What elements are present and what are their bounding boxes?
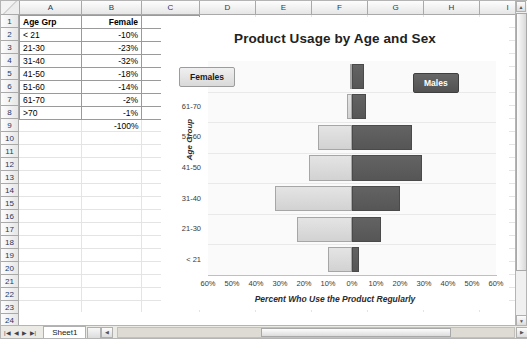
row-header-2[interactable]: 2 [1, 28, 19, 41]
cell-a7[interactable]: 61-70 [20, 94, 82, 107]
row-header-11[interactable]: 11 [1, 145, 19, 158]
bar-male-31-40[interactable] [352, 186, 400, 211]
bar-male-51-60[interactable] [352, 125, 412, 150]
gridline [208, 153, 496, 154]
sheet-tab-sheet1[interactable]: Sheet1 [43, 326, 86, 338]
bar-male--70[interactable] [352, 64, 364, 89]
row-header-7[interactable]: 7 [1, 93, 19, 106]
bar-male--21[interactable] [352, 247, 359, 272]
column-header-d[interactable]: D [200, 1, 256, 14]
y-tick--21: < 21 [167, 255, 201, 264]
column-header-b[interactable]: B [82, 1, 142, 14]
vertical-scrollbar[interactable]: ▲ ▼ [515, 1, 526, 326]
cell-b2[interactable]: -10% [82, 29, 142, 42]
row-header-16[interactable]: 16 [1, 210, 19, 223]
column-header-e[interactable]: E [256, 1, 312, 14]
cell-a6[interactable]: 51-60 [20, 81, 82, 94]
cell-a5[interactable]: 41-50 [20, 68, 82, 81]
y-axis-title: Age Group [185, 100, 194, 180]
cell-a2[interactable]: < 21 [20, 29, 82, 42]
scroll-up-icon[interactable]: ▲ [516, 1, 526, 12]
sheet-bottom-bar: |◀ ◀ ▶ ▶| Sheet1 ◀ ▶ [1, 325, 527, 338]
column-header-h[interactable]: H [424, 1, 480, 14]
column-header-row: A B C D E F G H I J K L [1, 1, 516, 15]
row-header-21[interactable]: 21 [1, 275, 19, 288]
cell-b3[interactable]: -23% [82, 42, 142, 55]
row-header-8[interactable]: 8 [1, 106, 19, 119]
cell-a4[interactable]: 31-40 [20, 55, 82, 68]
cell-b7[interactable]: -2% [82, 94, 142, 107]
gridline [208, 122, 496, 123]
cell-b9[interactable]: -100% [82, 120, 142, 133]
scroll-left-icon[interactable]: ◀ [101, 327, 113, 338]
legend-females[interactable]: Females [179, 67, 235, 87]
chart-object[interactable]: Product Usage by Age and Sex 60%50%40%30… [161, 17, 509, 310]
row-header-18[interactable]: 18 [1, 236, 19, 249]
cell-a8[interactable]: >70 [20, 107, 82, 120]
cell-b4[interactable]: -32% [82, 55, 142, 68]
column-header-a[interactable]: A [20, 1, 82, 14]
vertical-scroll-thumb[interactable] [516, 13, 527, 271]
row-header-6[interactable]: 6 [1, 80, 19, 93]
row-header-4[interactable]: 4 [1, 54, 19, 67]
new-sheet-icon[interactable] [87, 327, 101, 338]
column-header-g[interactable]: G [368, 1, 424, 14]
gridline [208, 183, 496, 184]
legend-males[interactable]: Males [413, 73, 459, 93]
row-header-9[interactable]: 9 [1, 119, 19, 132]
horizontal-scroll-thumb[interactable] [261, 328, 451, 337]
bar-male-21-30[interactable] [352, 217, 381, 242]
x-tick-12: 60% [481, 279, 511, 288]
row-header-13[interactable]: 13 [1, 171, 19, 184]
first-sheet-icon[interactable]: |◀ [3, 329, 12, 336]
bar-female--21[interactable] [328, 247, 352, 272]
horizontal-scrollbar[interactable] [117, 327, 515, 338]
cell-a9[interactable] [20, 120, 82, 133]
row-header-5[interactable]: 5 [1, 67, 19, 80]
chart-title: Product Usage by Age and Sex [161, 31, 509, 46]
row-header-20[interactable]: 20 [1, 262, 19, 275]
excel-window: A B C D E F G H I J K L 1234567891011121… [0, 0, 527, 339]
bar-female-51-60[interactable] [318, 125, 352, 150]
x-axis-title: Percent Who Use the Product Regularly [161, 294, 509, 304]
bar-male-41-50[interactable] [352, 155, 422, 180]
row-header-14[interactable]: 14 [1, 184, 19, 197]
cell-b5[interactable]: -18% [82, 68, 142, 81]
bar-female-41-50[interactable] [309, 155, 352, 180]
next-sheet-icon[interactable]: ▶ [21, 329, 28, 336]
cell-b6[interactable]: -14% [82, 81, 142, 94]
select-all-corner[interactable] [1, 1, 20, 14]
row-header-12[interactable]: 12 [1, 158, 19, 171]
cell-a1[interactable]: Age Grp [20, 16, 82, 29]
prev-sheet-icon[interactable]: ◀ [13, 329, 20, 336]
row-header-column: 123456789101112131415161718192021222324 [1, 15, 19, 327]
cell-b8[interactable]: -1% [82, 107, 142, 120]
row-header-10[interactable]: 10 [1, 132, 19, 145]
cell-a3[interactable]: 21-30 [20, 42, 82, 55]
cell-b1[interactable]: Female [82, 16, 142, 29]
sheet-tab-navigation[interactable]: |◀ ◀ ▶ ▶| [1, 329, 39, 336]
row-header-22[interactable]: 22 [1, 288, 19, 301]
y-tick-21-30: 21-30 [167, 224, 201, 233]
y-tick-31-40: 31-40 [167, 194, 201, 203]
last-sheet-icon[interactable]: ▶| [29, 329, 38, 336]
row-header-15[interactable]: 15 [1, 197, 19, 210]
gridline [208, 244, 496, 245]
gridline [208, 214, 496, 215]
column-header-f[interactable]: F [312, 1, 368, 14]
row-header-3[interactable]: 3 [1, 41, 19, 54]
scroll-right-icon[interactable]: ▶ [516, 327, 527, 338]
row-header-23[interactable]: 23 [1, 301, 19, 314]
bar-female-31-40[interactable] [275, 186, 352, 211]
row-header-19[interactable]: 19 [1, 249, 19, 262]
row-header-17[interactable]: 17 [1, 223, 19, 236]
plot-area [208, 61, 496, 275]
row-header-1[interactable]: 1 [1, 15, 19, 28]
bar-female-21-30[interactable] [297, 217, 352, 242]
x-axis-line [208, 275, 497, 276]
column-header-c[interactable]: C [142, 1, 200, 14]
bar-male-61-70[interactable] [352, 94, 366, 119]
